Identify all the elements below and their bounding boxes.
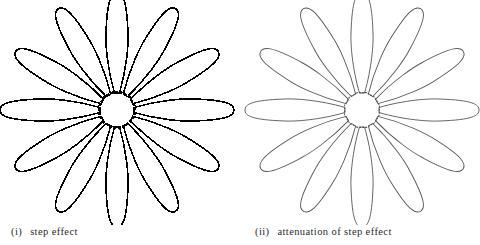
petal — [0, 99, 100, 121]
petal — [255, 42, 353, 111]
petal — [10, 42, 108, 111]
caption-number: (ii) — [255, 226, 269, 237]
petal — [134, 99, 234, 121]
petal — [371, 109, 469, 178]
petal — [379, 99, 479, 121]
petal — [361, 3, 430, 101]
petal — [126, 109, 224, 178]
petal — [294, 119, 363, 217]
panel-step-effect: (i)step effect — [0, 0, 240, 245]
petal — [371, 42, 469, 111]
petal — [49, 119, 118, 217]
caption-attenuation: (ii)attenuation of step effect — [255, 226, 392, 237]
caption-number: (i) — [11, 226, 22, 237]
petal — [294, 3, 363, 101]
panel-attenuated-step-effect: (ii)attenuation of step effect — [240, 0, 480, 245]
flower-drawing-smoothed — [240, 0, 480, 225]
petal — [106, 0, 128, 93]
petal — [10, 109, 108, 178]
petal — [361, 119, 430, 217]
petal — [126, 42, 224, 111]
petal — [49, 3, 118, 101]
caption-text: step effect — [30, 226, 78, 237]
petal — [106, 127, 128, 225]
petal — [245, 99, 345, 121]
petal — [116, 3, 185, 101]
caption-step-effect: (i)step effect — [11, 226, 78, 237]
flower-drawing-jagged — [0, 0, 240, 225]
petal — [116, 119, 185, 217]
petal — [351, 127, 373, 225]
petal — [255, 109, 353, 178]
flower-center-ring — [100, 93, 135, 128]
petal — [351, 0, 373, 93]
caption-text: attenuation of step effect — [277, 226, 391, 237]
flower-center-ring — [345, 93, 380, 128]
